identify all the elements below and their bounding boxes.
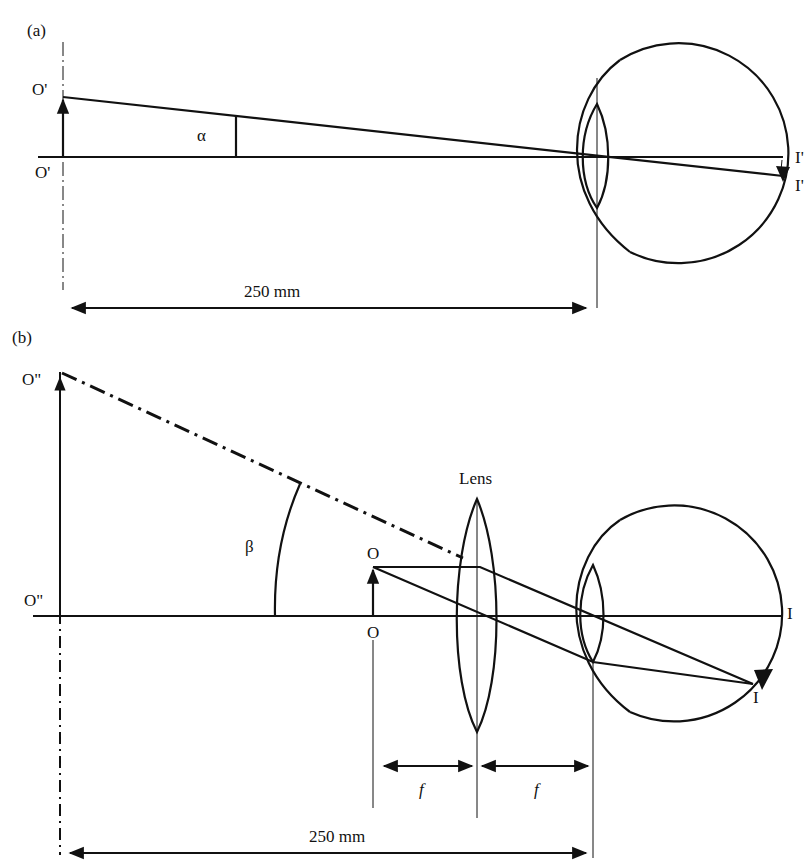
optics-diagram	[0, 0, 810, 864]
distance-label-a: 250 mm	[244, 283, 300, 300]
virtual-base-label-b: O"	[24, 592, 43, 609]
angle-beta-label: β	[245, 538, 254, 555]
virtual-top-label-b: O"	[22, 371, 41, 388]
image-axis-label-a: I'	[795, 149, 804, 166]
virtual-ray-b	[62, 373, 463, 558]
object-base-label-b: O	[367, 624, 379, 641]
image-arrowhead-b	[754, 669, 773, 690]
image-point-label-a: I'	[795, 177, 804, 194]
image-axis-label-b: I	[787, 605, 793, 622]
object-top-label-a: O'	[32, 81, 47, 98]
object-top-label-b: O	[367, 545, 379, 562]
panel-a-figure	[38, 42, 790, 308]
angle-alpha-label: α	[197, 127, 206, 144]
angle-beta-arc	[275, 484, 300, 616]
central-ray-b	[373, 567, 753, 684]
image-point-label-b: I	[753, 689, 759, 706]
lens-label: Lens	[459, 470, 492, 487]
image-arrowhead-a	[776, 166, 790, 182]
chief-ray-a	[63, 97, 783, 176]
panel-a-label: (a)	[27, 22, 46, 39]
eyeball-a	[620, 43, 788, 263]
object-base-label-a: O'	[35, 164, 50, 181]
eye-lens-b	[580, 565, 603, 662]
panel-b-figure	[33, 372, 783, 858]
parallel-ray-b	[373, 567, 753, 684]
panel-b-label: (b)	[12, 329, 32, 346]
distance-label-b: 250 mm	[309, 828, 365, 845]
focal-length-label-left: f	[419, 781, 424, 798]
focal-length-label-right: f	[534, 781, 539, 798]
